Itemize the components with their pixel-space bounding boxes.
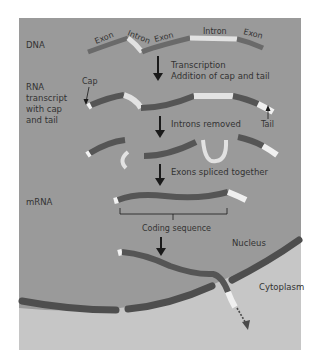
step-exons-spliced: Exons spliced together — [171, 167, 269, 177]
label-nucleus: Nucleus — [232, 238, 266, 248]
label-tail: Tail — [260, 120, 274, 129]
label-rna-3: with cap — [26, 104, 62, 114]
label-coding-sequence: Coding sequence — [142, 224, 211, 233]
label-cap: Cap — [82, 77, 98, 86]
label-cytoplasm: Cytoplasm — [259, 282, 304, 292]
step-cap-and-tail: Addition of cap and tail — [171, 71, 270, 81]
label-rna-4: and tail — [26, 115, 58, 125]
label-mrna: mRNA — [26, 197, 53, 207]
step-introns-removed: Introns removed — [171, 119, 241, 129]
label-rna-1: RNA — [26, 82, 44, 92]
gene-expression-diagram: DNA Exon Intron Exon Intron Exon Transcr… — [0, 0, 316, 364]
label-rna-2: transcript — [26, 93, 68, 103]
label-intron-2: Intron — [203, 27, 227, 36]
step-transcription: Transcription — [170, 60, 226, 70]
label-dna: DNA — [26, 40, 45, 50]
